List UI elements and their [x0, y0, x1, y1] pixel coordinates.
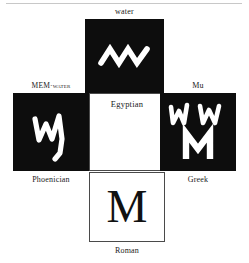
caption-phoenician: Phoenician	[13, 175, 89, 185]
caption-greek: Greek	[160, 175, 236, 185]
caption-center-egyptian: Egyptian	[89, 99, 165, 109]
caption-roman: Roman	[89, 246, 165, 256]
caption-top-water: water	[85, 7, 164, 17]
panel-roman-m	[89, 172, 165, 242]
phoenician-mem-icon	[13, 93, 89, 171]
letter-evolution-diagram: water MEM·water Egyptian Mu Phoenician G…	[0, 0, 249, 263]
panel-phoenician-mem	[13, 93, 89, 171]
caption-right-mu: Mu	[160, 81, 236, 91]
greek-mu-variants-icon	[160, 93, 236, 171]
caption-left-mem-water: MEM·water	[5, 81, 97, 91]
panel-greek-mu	[160, 93, 236, 171]
top-divider-rule	[6, 3, 242, 4]
